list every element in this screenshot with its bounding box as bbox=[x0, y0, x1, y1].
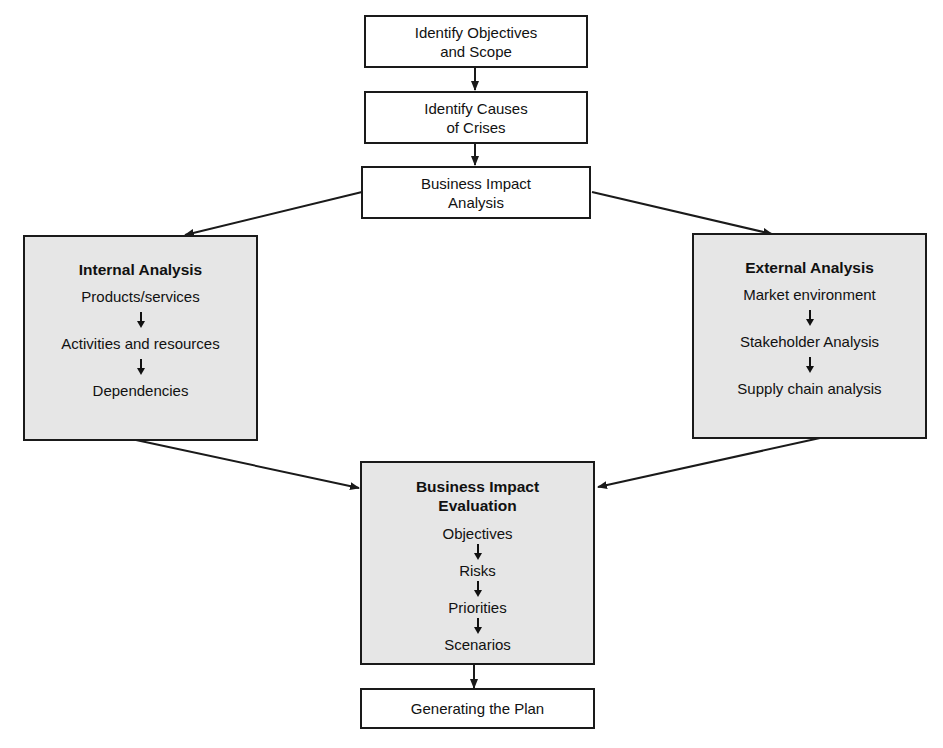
down-arrow-icon bbox=[136, 359, 146, 375]
node-title: Internal Analysis bbox=[79, 260, 202, 279]
down-arrow-icon bbox=[136, 312, 146, 328]
node-item: Objectives bbox=[442, 524, 512, 543]
down-arrow-icon bbox=[473, 544, 483, 560]
node-item: Dependencies bbox=[93, 381, 189, 400]
node-title-line: Evaluation bbox=[438, 496, 516, 515]
down-arrow-icon bbox=[805, 357, 815, 373]
node-item: Activities and resources bbox=[61, 334, 219, 353]
node-business-impact-evaluation: Business Impact Evaluation Objectives Ri… bbox=[360, 461, 595, 665]
node-label-line: Generating the Plan bbox=[411, 699, 544, 718]
down-arrow-icon bbox=[473, 581, 483, 597]
node-item: Supply chain analysis bbox=[737, 379, 881, 398]
node-business-impact-analysis: Business Impact Analysis bbox=[361, 166, 591, 219]
node-label-line: Analysis bbox=[448, 193, 504, 212]
node-title-line: Business Impact bbox=[416, 477, 539, 496]
down-arrow-icon bbox=[473, 618, 483, 634]
node-label-line: Business Impact bbox=[421, 174, 531, 193]
node-label-line: of Crises bbox=[446, 118, 505, 137]
node-generating-the-plan: Generating the Plan bbox=[360, 688, 595, 729]
arrow-internal-to-evaluation bbox=[136, 440, 359, 488]
node-identify-objectives-scope: Identify Objectives and Scope bbox=[364, 15, 588, 68]
arrow-bia-to-internal bbox=[185, 192, 362, 235]
node-item: Priorities bbox=[448, 598, 506, 617]
node-item: Scenarios bbox=[444, 635, 511, 654]
node-label-line: Identify Causes bbox=[424, 99, 527, 118]
node-item: Market environment bbox=[743, 285, 876, 304]
arrow-external-to-evaluation bbox=[598, 438, 820, 487]
node-item: Stakeholder Analysis bbox=[740, 332, 879, 351]
node-title: External Analysis bbox=[745, 258, 874, 277]
node-item: Products/services bbox=[81, 287, 199, 306]
node-label-line: Identify Objectives bbox=[415, 23, 538, 42]
node-identify-causes-crises: Identify Causes of Crises bbox=[364, 91, 588, 144]
arrow-bia-to-external bbox=[592, 192, 772, 234]
down-arrow-icon bbox=[805, 310, 815, 326]
node-internal-analysis: Internal Analysis Products/services Acti… bbox=[23, 235, 258, 441]
node-label-line: and Scope bbox=[440, 42, 512, 61]
node-external-analysis: External Analysis Market environment Sta… bbox=[692, 233, 927, 439]
node-item: Risks bbox=[459, 561, 496, 580]
